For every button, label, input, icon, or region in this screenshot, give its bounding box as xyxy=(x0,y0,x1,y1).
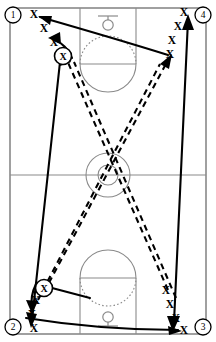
player-x-marker: X xyxy=(180,6,189,18)
court-svg: 1 4 2 3 X X X X X X X X xyxy=(0,0,216,342)
player-x-marker: X xyxy=(172,312,181,324)
corner-label-3: 3 xyxy=(201,322,206,332)
player-x-marker: X xyxy=(50,36,59,48)
bottom-hoop-icon xyxy=(98,312,118,326)
player-queue-top-left: X X X xyxy=(30,8,59,48)
player-x-marker: X xyxy=(30,8,39,20)
player-x-marker: X xyxy=(40,22,49,34)
player-x-marker: X xyxy=(162,284,171,296)
corner-label-2: 2 xyxy=(11,322,16,332)
player-x-marker: X xyxy=(180,324,189,336)
player-x-marker: X xyxy=(174,20,183,32)
corner-label-1: 1 xyxy=(11,10,16,20)
basketball-drill-diagram: 1 4 2 3 X X X X X X X X xyxy=(0,0,216,342)
ball-handler-top-left[interactable]: X xyxy=(55,48,72,65)
ball-handler-bottom-left[interactable]: X xyxy=(36,280,53,297)
player-x-marker: X xyxy=(166,48,175,60)
player-queue-top-right: X X X X xyxy=(166,6,189,60)
top-hoop-icon xyxy=(98,16,118,30)
corner-label-4: 4 xyxy=(201,10,206,20)
player-x-marker: X xyxy=(166,298,175,310)
ball-handler-label: X xyxy=(59,51,67,62)
player-x-marker: X xyxy=(28,308,37,320)
player-queue-bottom-left: X X X xyxy=(28,294,41,334)
player-x-marker: X xyxy=(30,322,39,334)
corner-marker-4[interactable]: 4 xyxy=(195,7,211,23)
corner-marker-2[interactable]: 2 xyxy=(5,319,21,335)
cut-diagonal-b2-path xyxy=(74,62,176,298)
cut-diagonal-b-path xyxy=(60,50,168,290)
ball-handler-label: X xyxy=(40,283,48,294)
bottom-key xyxy=(80,250,136,334)
player-x-marker: X xyxy=(168,34,177,46)
corner-marker-3[interactable]: 3 xyxy=(195,319,211,335)
top-key xyxy=(80,8,136,92)
corner-marker-1[interactable]: 1 xyxy=(5,7,21,23)
